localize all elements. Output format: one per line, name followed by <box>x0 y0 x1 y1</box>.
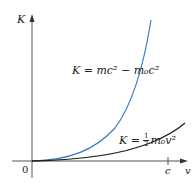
y-axis-arrow-icon <box>30 14 35 22</box>
x-axis-label: v <box>185 166 191 176</box>
relativistic-equation-label: K = mc² − m₀c² <box>72 65 159 76</box>
y-axis-label: K <box>17 14 25 25</box>
chart-canvas <box>0 0 194 192</box>
classical-eq-suffix: m₀v² <box>150 135 175 146</box>
classical-equation-label: K = 1 2 m₀v² <box>119 133 176 148</box>
x-axis-arrow-icon <box>180 159 188 164</box>
classical-eq-prefix: K = <box>119 135 140 146</box>
origin-label: 0 <box>22 165 28 175</box>
fraction-denominator: 2 <box>144 141 148 148</box>
fraction-half: 1 2 <box>143 133 149 148</box>
c-tick-label: c <box>165 166 171 176</box>
